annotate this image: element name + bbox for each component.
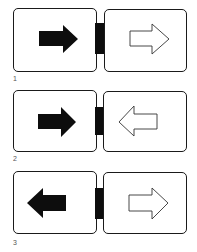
figure-label: 1 [13,75,17,82]
outline-right-arrow-icon [0,164,197,252]
outline-left-arrow-icon [0,82,197,164]
figure-label: 3 [13,239,17,246]
figure-3: 3 [0,164,197,252]
outline-right-arrow-icon [0,0,197,82]
figure-label: 2 [13,155,17,162]
figure-2: 2 [0,82,197,164]
figure-1: 1 [0,0,197,82]
